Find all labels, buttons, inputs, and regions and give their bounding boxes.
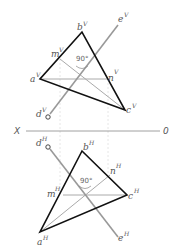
svg-text:V: V [132, 102, 137, 109]
axis-label-0: 0 [163, 126, 169, 136]
label-e-horizontal: e [118, 233, 123, 243]
label-c-vertical: c [126, 105, 131, 115]
label-c-horizontal: c [128, 191, 133, 201]
label-a-vertical: a [30, 74, 35, 84]
svg-text:V: V [124, 11, 129, 18]
svg-text:H: H [42, 234, 49, 241]
label-a-horizontal: a [37, 237, 42, 247]
angle-label-vertical: 90° [76, 55, 88, 63]
axis-label-x: X [13, 126, 21, 136]
svg-text:H: H [133, 187, 140, 194]
svg-text:V: V [83, 20, 88, 27]
line-a-n-horizontal [40, 175, 110, 232]
svg-text:H: H [88, 139, 95, 146]
svg-text:V: V [114, 68, 119, 75]
svg-text:H: H [41, 135, 48, 142]
svg-text:V: V [42, 106, 47, 113]
svg-text:H: H [115, 162, 122, 169]
svg-text:H: H [123, 230, 130, 237]
point-d-horizontal [46, 145, 50, 149]
svg-text:V: V [59, 46, 64, 53]
svg-text:H: H [54, 185, 61, 192]
line-m-c-vertical [60, 59, 125, 110]
projection-diagram: X 0 90° b V a V c V d V e V m V n V 90° … [0, 0, 179, 251]
label-e-vertical: e [118, 14, 123, 24]
point-d-vertical [46, 115, 50, 119]
angle-label-horizontal: 90° [80, 177, 92, 185]
svg-text:V: V [36, 71, 41, 78]
